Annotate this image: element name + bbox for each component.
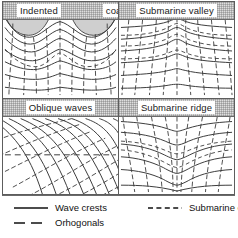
wave-crests (121, 122, 232, 192)
orthogonals (123, 117, 230, 192)
legend-item-wave-crests: Wave crests (14, 202, 107, 213)
legend-label-submarine-contours: Submarine contours (189, 202, 238, 213)
legend-item-orthogonals: Orhogonals (14, 217, 104, 228)
panel-title-indented: Indented (17, 4, 61, 17)
submarine-contours (5, 49, 116, 67)
panel-title-band-indented-coast: Indented coast (3, 2, 119, 20)
panel-indented-coast: Indented coast (2, 1, 119, 99)
panel-grid: Indented coast (2, 1, 235, 195)
orthogonals (122, 18, 232, 95)
wave-crests (121, 19, 232, 89)
panel-title-band-oblique-waves: Oblique waves (3, 99, 118, 117)
panel-submarine-ridge: Submarine ridge (118, 98, 235, 195)
dashed-line-icon (148, 204, 182, 212)
panel-title-submarine-ridge: Submarine ridge (138, 101, 215, 114)
panel-title-submarine-valley: Submarine valley (136, 4, 216, 17)
panel-submarine-valley: Submarine valley (118, 1, 235, 99)
legend: Wave crests Submarine contours Orhogonal… (2, 195, 235, 233)
wave-refraction-figure: Indented coast (0, 0, 238, 238)
panel-title-coast: coast (103, 4, 119, 17)
panel-oblique-waves: Oblique waves (2, 98, 119, 195)
legend-label-orthogonals: Orhogonals (55, 217, 104, 228)
legend-item-submarine-contours: Submarine contours (148, 202, 238, 213)
legend-label-wave-crests: Wave crests (55, 202, 107, 213)
panel-title-band-submarine-valley: Submarine valley (119, 2, 234, 20)
long-dash-line-icon (14, 219, 48, 227)
orthogonals (3, 119, 118, 194)
panel-title-band-submarine-ridge: Submarine ridge (119, 99, 234, 117)
panel-title-oblique-waves: Oblique waves (26, 101, 96, 114)
solid-line-icon (14, 204, 48, 212)
